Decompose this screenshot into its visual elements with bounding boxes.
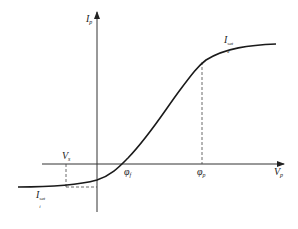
electron-saturation-label: Isate xyxy=(224,35,237,45)
iv-curve xyxy=(18,44,276,187)
y-axis-label: Ip xyxy=(86,14,92,25)
ion-saturation-label: Isati xyxy=(36,190,49,200)
x-axis-label: Vp xyxy=(274,167,283,178)
floating-potential-label: φf xyxy=(124,167,131,178)
plasma-potential-label: φp xyxy=(197,167,206,178)
vs-label: Vs xyxy=(62,151,70,162)
